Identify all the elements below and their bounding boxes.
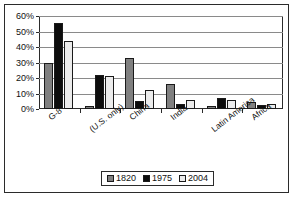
bar — [54, 23, 63, 109]
chart-frame: 60%50%40%30%20%10%0% G-8(U.S. only)China… — [4, 4, 289, 193]
legend-item: 1975 — [143, 174, 172, 183]
y-axis-tick-label: 10% — [16, 89, 34, 98]
plot-area: 60%50%40%30%20%10%0% — [39, 16, 283, 109]
bar — [166, 84, 175, 109]
legend-item: 2004 — [179, 174, 208, 183]
legend-item: 1820 — [107, 174, 136, 183]
y-axis-tick-label: 50% — [16, 27, 34, 36]
bar-group — [39, 16, 80, 109]
bar-group — [161, 16, 202, 109]
bar — [105, 76, 114, 109]
category-separator — [202, 109, 203, 113]
legend-swatch-icon — [143, 175, 150, 182]
bar-group — [202, 16, 243, 109]
chart-legend: 182019752004 — [101, 171, 214, 186]
bar-group — [120, 16, 161, 109]
bar — [217, 98, 226, 109]
bar — [44, 63, 53, 110]
y-axis-tick-label: 60% — [16, 12, 34, 21]
legend-swatch-icon — [179, 175, 186, 182]
bar-group — [80, 16, 121, 109]
bar — [207, 106, 216, 109]
legend-swatch-icon — [107, 175, 114, 182]
legend-label: 1820 — [116, 174, 136, 183]
category-separator — [161, 109, 162, 113]
legend-label: 1975 — [152, 174, 172, 183]
y-axis-tick-mark — [36, 109, 39, 110]
bar — [95, 75, 104, 109]
y-axis-tick-label: 0% — [21, 105, 34, 114]
y-axis-tick-label: 20% — [16, 74, 34, 83]
legend-label: 2004 — [188, 174, 208, 183]
y-axis-tick-label: 40% — [16, 43, 34, 52]
bar — [125, 58, 134, 109]
bar — [64, 41, 73, 109]
bar — [85, 106, 94, 109]
y-axis-tick-label: 30% — [16, 58, 34, 67]
category-separator — [80, 109, 81, 113]
